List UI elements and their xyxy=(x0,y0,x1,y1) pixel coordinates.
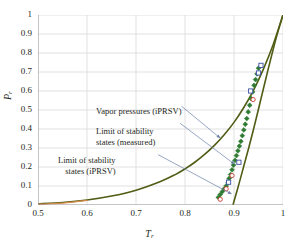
data-marker xyxy=(238,139,243,144)
y-tick-label: 0.2 xyxy=(0,162,32,171)
data-marker xyxy=(236,148,241,153)
annotation-leader-line xyxy=(180,123,234,164)
annotation-measured-line1: Limit of stability xyxy=(96,126,154,136)
y-tick-label: 0.3 xyxy=(0,143,32,152)
x-axis-title: Tr xyxy=(0,228,299,240)
y-tick-label: 0.8 xyxy=(0,48,32,57)
y-tick-label: 0.1 xyxy=(0,181,32,190)
data-marker xyxy=(241,128,246,133)
x-tick-label: 0.6 xyxy=(67,209,107,218)
data-marker xyxy=(247,103,252,108)
data-marker xyxy=(259,63,263,67)
annotation-leader-line xyxy=(182,106,221,138)
y-tick-label: 0.9 xyxy=(0,29,32,38)
annotation-limit-stability-measured: Limit of stability states (measured) xyxy=(96,126,155,147)
y-tick-label: 0.5 xyxy=(0,105,32,114)
y-tick-label: 0.7 xyxy=(0,67,32,76)
annotation-iprsv-line2: states (iPRSV) xyxy=(58,166,116,177)
y-axis-title-subscript: r xyxy=(6,91,14,94)
data-marker xyxy=(244,116,249,121)
data-marker xyxy=(218,197,222,201)
annotation-leader-lines xyxy=(158,106,234,194)
data-marker xyxy=(230,173,234,177)
annotation-vapor-line1: Vapor pressures (iPRSV) xyxy=(96,106,181,116)
data-marker xyxy=(227,180,231,184)
x-axis-title-subscript: r xyxy=(151,232,154,240)
data-marker xyxy=(240,133,245,138)
x-tick-label: 0.8 xyxy=(165,209,205,218)
data-marker xyxy=(256,71,260,75)
x-tick-label: 0.5 xyxy=(18,209,58,218)
annotation-limit-stability-iprsv: Limit of stability states (iPRSV) xyxy=(58,155,116,176)
data-marker xyxy=(234,153,239,158)
x-tick-label: 1 xyxy=(263,209,299,218)
x-tick-label: 0.7 xyxy=(116,209,156,218)
data-marker xyxy=(243,122,248,127)
annotation-leader-line xyxy=(158,155,232,194)
data-marker xyxy=(249,89,253,93)
data-marker xyxy=(237,160,241,164)
y-tick-label: 0.4 xyxy=(0,124,32,133)
y-tick-label: 1 xyxy=(0,10,32,19)
y-tick-label: 0 xyxy=(0,200,32,209)
annotation-vapor-pressures: Vapor pressures (iPRSV) xyxy=(96,106,181,117)
annotation-measured-line2: states (measured) xyxy=(96,137,155,148)
series-curve xyxy=(38,200,87,204)
x-tick-label: 0.9 xyxy=(214,209,254,218)
y-axis-title-main: P xyxy=(2,94,13,100)
y-axis-title: Pr xyxy=(2,91,14,100)
data-marker xyxy=(251,97,255,101)
annotation-iprsv-line1: Limit of stability xyxy=(58,155,116,165)
figure-chart-reduced-pressure-temperature: 00.10.20.30.40.50.60.70.80.91 0.50.60.70… xyxy=(0,0,299,248)
